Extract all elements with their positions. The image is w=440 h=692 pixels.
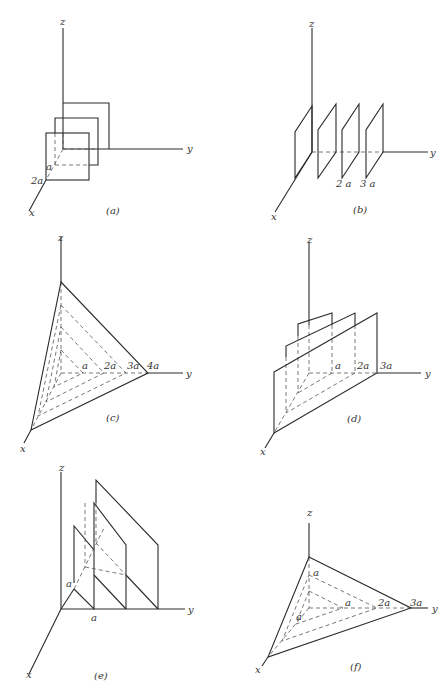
plane-2a bbox=[46, 327, 104, 402]
y-label: y bbox=[429, 147, 436, 158]
plane-0 bbox=[295, 106, 312, 178]
tick-label: 3 a bbox=[360, 178, 376, 189]
z-label: z bbox=[308, 18, 315, 29]
y-label: y bbox=[185, 368, 192, 379]
x-label: x bbox=[260, 446, 266, 457]
tick-label: 2 a bbox=[335, 178, 352, 189]
x-axis bbox=[262, 657, 268, 666]
plane-3 bbox=[96, 480, 158, 609]
tick-label: 2a bbox=[356, 360, 369, 371]
plane-middle bbox=[282, 575, 377, 641]
z-label: z bbox=[306, 507, 313, 518]
y-label: y bbox=[186, 143, 193, 154]
plane-1 bbox=[74, 526, 94, 609]
tick-label: 3a bbox=[380, 360, 392, 371]
plane-a bbox=[54, 350, 83, 387]
plane-2 bbox=[94, 503, 126, 609]
tick-label: 2a bbox=[103, 360, 116, 371]
z-label: z bbox=[306, 234, 313, 245]
panel-d: x y z a 2a 3a (d) bbox=[260, 234, 431, 457]
x-axis bbox=[29, 609, 61, 674]
figure-canvas: x y z a 2a (a) x y z 2 a 3 a (b) bbox=[0, 0, 440, 692]
tick-label: 4a bbox=[146, 360, 159, 371]
z-label: z bbox=[59, 16, 66, 27]
tick-label: a bbox=[46, 161, 52, 172]
tick-label: 2a bbox=[377, 597, 390, 608]
z-label: z bbox=[57, 232, 64, 243]
panel-e: x y z a a (e) bbox=[26, 462, 194, 681]
x-label: x bbox=[271, 211, 277, 222]
x-axis bbox=[265, 433, 274, 448]
tick-label: 2a bbox=[30, 175, 43, 186]
tick-label: a bbox=[66, 578, 72, 589]
tick-label: 3a bbox=[127, 360, 139, 371]
plane-front bbox=[46, 133, 89, 180]
tick-label: a bbox=[345, 597, 351, 608]
caption-c: (c) bbox=[106, 412, 120, 423]
x-label: x bbox=[29, 207, 35, 218]
y-label: y bbox=[424, 368, 431, 379]
tick-label: a bbox=[82, 360, 88, 371]
x-label: x bbox=[255, 664, 261, 675]
tick-label: a bbox=[335, 360, 341, 371]
plane-inner bbox=[296, 591, 343, 624]
caption-e: (e) bbox=[94, 670, 108, 681]
caption-d: (d) bbox=[347, 413, 361, 424]
plane-3 bbox=[366, 104, 383, 178]
x-axis bbox=[24, 430, 31, 443]
panel-f: x y z a a a 2a 3a (f) bbox=[255, 507, 438, 675]
plane-back bbox=[63, 103, 109, 149]
panel-a: x y z a 2a (a) bbox=[29, 16, 193, 218]
z-label: z bbox=[58, 462, 65, 473]
panel-b: x y z 2 a 3 a (b) bbox=[271, 18, 436, 222]
plane-1 bbox=[318, 104, 336, 178]
plane-2a bbox=[286, 313, 355, 357]
caption-b: (b) bbox=[353, 204, 367, 215]
tick-label: 3a bbox=[410, 597, 422, 608]
caption-f: (f) bbox=[350, 661, 362, 672]
plane-2 bbox=[342, 104, 359, 178]
caption-a: (a) bbox=[106, 205, 120, 216]
panel-c: x y z a 2a 3a 4a (c) bbox=[20, 232, 192, 454]
plane-middle bbox=[55, 118, 98, 165]
tick-label: a bbox=[296, 611, 302, 622]
plane-4a bbox=[31, 282, 148, 430]
tick-label: a bbox=[91, 612, 97, 623]
y-label: y bbox=[431, 603, 438, 614]
x-label: x bbox=[26, 669, 32, 680]
x-label: x bbox=[20, 443, 26, 454]
tick-label: a bbox=[313, 567, 319, 578]
y-label: y bbox=[187, 604, 194, 615]
